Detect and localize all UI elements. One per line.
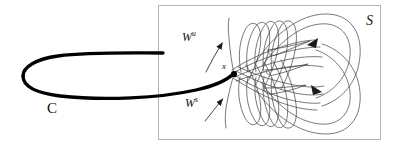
label-unstable-manifold-superscript: u [192, 29, 196, 38]
label-section: S [366, 14, 373, 28]
label-stable-manifold-base: W [185, 96, 195, 110]
label-stable-manifold: Ws [185, 96, 198, 109]
label-unstable-manifold: Wu [182, 30, 196, 43]
fixed-point-dot [231, 71, 237, 77]
label-closed-orbit: C [47, 101, 57, 116]
orbit-upper-branch [23, 53, 163, 76]
label-unstable-manifold-base: W [182, 30, 192, 44]
label-fixed-point: x [222, 62, 226, 71]
homoclinic-tangle-figure: C S Wu Ws x [0, 0, 393, 150]
label-stable-manifold-superscript: s [195, 95, 198, 104]
figure-canvas [0, 0, 393, 150]
